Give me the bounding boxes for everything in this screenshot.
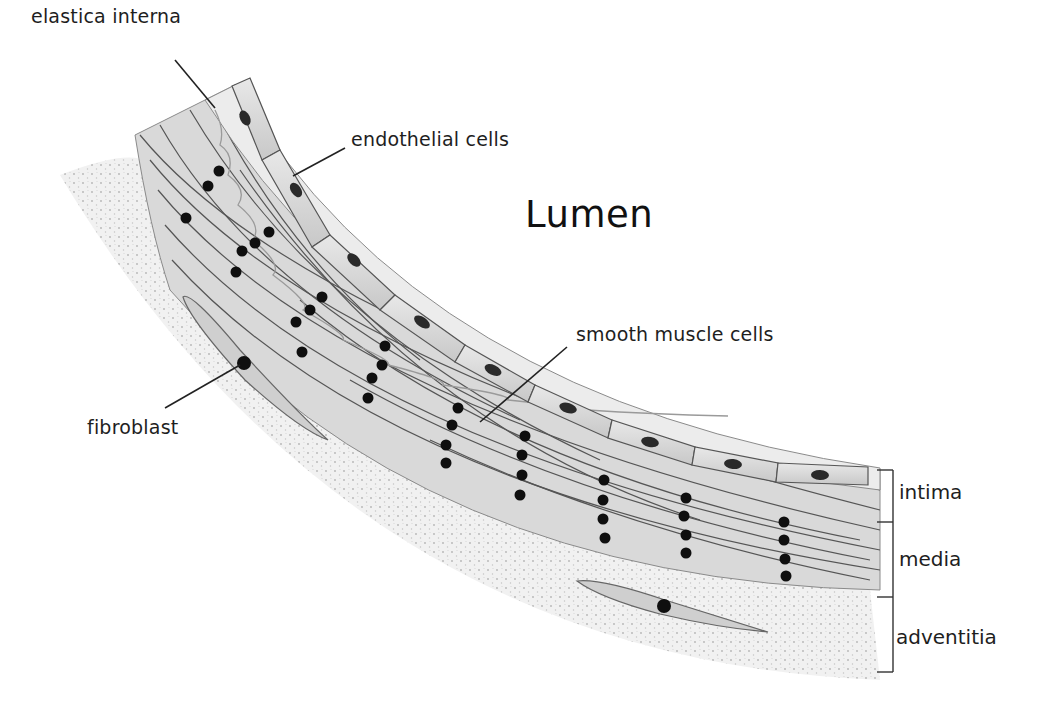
label-layer-adventitia: adventitia	[896, 627, 997, 647]
artery-wall-diagram	[0, 0, 1046, 707]
label-fibroblast: fibroblast	[87, 418, 178, 437]
label-layer-intima: intima	[899, 482, 962, 502]
label-elastica-interna: elastica interna	[31, 7, 181, 26]
label-smooth-muscle-cells: smooth muscle cells	[576, 325, 773, 344]
label-lumen: Lumen	[525, 196, 653, 233]
label-layer-media: media	[899, 549, 961, 569]
label-endothelial-cells: endothelial cells	[351, 130, 509, 149]
